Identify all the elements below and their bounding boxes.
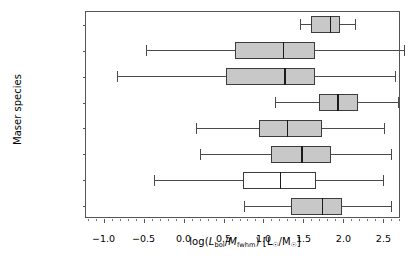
whisker-cap-high <box>355 19 356 30</box>
x-minor-tick <box>232 219 233 221</box>
x-minor-tick <box>335 219 336 221</box>
median-line <box>330 16 331 33</box>
box-iqr <box>226 68 315 85</box>
whisker-low <box>275 102 319 103</box>
x-minor-tick <box>279 219 280 221</box>
y-tick-mark <box>83 77 87 78</box>
x-minor-tick <box>375 219 376 221</box>
x-minor-tick <box>216 219 217 221</box>
whisker-low <box>196 128 259 129</box>
x-minor-tick <box>319 219 320 221</box>
x-minor-tick <box>399 219 400 221</box>
whisker-cap-low <box>244 201 245 212</box>
whisker-cap-low <box>154 175 155 186</box>
x-tick-mark <box>383 219 384 223</box>
y-tick-mark <box>83 154 87 155</box>
x-minor-tick <box>88 219 89 221</box>
x-tick-mark <box>184 219 185 223</box>
x-minor-tick <box>240 219 241 221</box>
x-tick-mark <box>343 219 344 223</box>
x-minor-tick <box>120 219 121 221</box>
whisker-high <box>316 180 382 181</box>
x-axis-title: log(Lbol/Mfwhm) [L☉/M☉] <box>0 236 412 249</box>
whisker-cap-high <box>383 175 384 186</box>
x-tick-mark <box>144 219 145 223</box>
box-iqr <box>311 16 340 33</box>
y-axis-title-text: Maser species <box>12 74 23 145</box>
x-minor-tick <box>311 219 312 221</box>
y-axis-title: Maser species <box>12 50 23 170</box>
plot-axes: 104.3 GHz95 GHz84 GHz107 GHz6.7 GHz12.2 … <box>85 11 400 218</box>
y-tick-mark <box>83 128 87 129</box>
x-minor-tick <box>96 219 97 221</box>
x-minor-tick <box>136 219 137 221</box>
whisker-high <box>342 206 391 207</box>
y-tick-mark <box>83 180 87 181</box>
whisker-cap-low <box>275 97 276 108</box>
x-minor-tick <box>255 219 256 221</box>
x-minor-tick <box>351 219 352 221</box>
x-minor-tick <box>247 219 248 221</box>
whisker-high <box>315 76 396 77</box>
median-line <box>287 120 288 137</box>
x-minor-tick <box>112 219 113 221</box>
x-tick-mark <box>303 219 304 223</box>
x-minor-tick <box>359 219 360 221</box>
box-iqr <box>319 94 357 111</box>
x-tick-mark <box>224 219 225 223</box>
whisker-low <box>146 50 235 51</box>
x-minor-tick <box>128 219 129 221</box>
whisker-high <box>358 102 398 103</box>
y-tick-mark <box>83 25 87 26</box>
x-minor-tick <box>192 219 193 221</box>
x-minor-tick <box>391 219 392 221</box>
x-tick-mark <box>263 219 264 223</box>
whisker-cap-high <box>404 45 405 56</box>
x-minor-tick <box>367 219 368 221</box>
x-minor-tick <box>176 219 177 221</box>
whisker-high <box>340 24 355 25</box>
whisker-low <box>300 24 311 25</box>
x-minor-tick <box>168 219 169 221</box>
x-axis-title-text: log(Lbol/Mfwhm) [L☉/M☉] <box>111 236 301 249</box>
whisker-low <box>244 206 292 207</box>
median-line <box>280 172 281 189</box>
whisker-high <box>322 128 384 129</box>
x-minor-tick <box>327 219 328 221</box>
box-iqr <box>235 42 316 59</box>
whisker-cap-high <box>395 71 396 82</box>
y-tick-mark <box>83 103 87 104</box>
whisker-cap-high <box>391 201 392 212</box>
whisker-cap-low <box>196 123 197 134</box>
x-minor-tick <box>208 219 209 221</box>
whisker-cap-high <box>398 97 399 108</box>
whisker-low <box>117 76 226 77</box>
y-tick-mark <box>83 51 87 52</box>
median-line <box>322 198 323 215</box>
x-minor-tick <box>200 219 201 221</box>
boxplot-figure: Maser species 104.3 GHz95 GHz84 GHz107 G… <box>0 0 412 262</box>
whisker-cap-low <box>300 19 301 30</box>
x-minor-tick <box>160 219 161 221</box>
x-minor-tick <box>295 219 296 221</box>
whisker-low <box>200 154 270 155</box>
whisker-cap-low <box>200 149 201 160</box>
y-tick-mark <box>83 206 87 207</box>
whisker-cap-low <box>117 71 118 82</box>
whisker-high <box>315 50 404 51</box>
median-line <box>337 94 338 111</box>
whisker-low <box>154 180 243 181</box>
whisker-high <box>331 154 390 155</box>
median-line <box>301 146 302 163</box>
whisker-cap-low <box>146 45 147 56</box>
whisker-cap-high <box>384 123 385 134</box>
whisker-cap-high <box>391 149 392 160</box>
box-iqr <box>259 120 322 137</box>
x-minor-tick <box>271 219 272 221</box>
x-minor-tick <box>287 219 288 221</box>
x-tick-mark <box>104 219 105 223</box>
x-minor-tick <box>152 219 153 221</box>
box-iqr <box>291 198 341 215</box>
median-line <box>284 68 285 85</box>
median-line <box>283 42 284 59</box>
